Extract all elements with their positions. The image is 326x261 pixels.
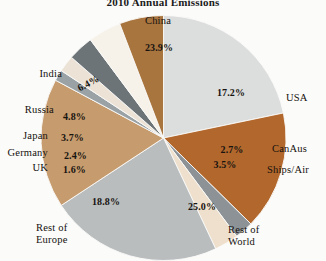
label-rest-of-world-line2: World bbox=[228, 236, 255, 247]
label-germany: Germany bbox=[0, 147, 48, 159]
label-canaus: CanAus bbox=[272, 143, 307, 155]
value-uk: 1.6% bbox=[63, 164, 86, 175]
value-canaus: 2.7% bbox=[212, 144, 252, 155]
label-russia: Russia bbox=[0, 104, 54, 116]
label-india: India bbox=[0, 68, 62, 80]
label-rest-of-europe-line2: Europe bbox=[36, 234, 68, 245]
value-russia: 4.8% bbox=[63, 111, 86, 122]
value-china: 23.9% bbox=[129, 42, 189, 53]
label-china: China bbox=[113, 15, 203, 27]
label-ships-air: Ships/Air bbox=[267, 164, 309, 176]
label-rest-of-europe-line1: Rest of bbox=[36, 222, 67, 233]
value-ships-air: 3.5% bbox=[205, 159, 245, 170]
label-uk: UK bbox=[0, 162, 48, 174]
label-rest-of-world: Rest of World bbox=[228, 224, 298, 248]
value-germany: 2.4% bbox=[64, 150, 87, 161]
label-rest-of-europe: Rest of Europe bbox=[36, 222, 106, 246]
value-japan: 3.7% bbox=[61, 132, 84, 143]
pie-chart-figure: 2010 Annual Emissions 23.9% 17.2% 2.7% 3… bbox=[0, 0, 326, 261]
label-rest-of-world-line1: Rest of bbox=[228, 224, 259, 235]
label-japan: Japan bbox=[0, 130, 48, 142]
label-usa: USA bbox=[286, 92, 308, 104]
value-rest-of-europe: 18.8% bbox=[81, 196, 131, 207]
value-usa: 17.2% bbox=[206, 87, 256, 98]
value-rest-of-world: 25.0% bbox=[177, 201, 227, 212]
